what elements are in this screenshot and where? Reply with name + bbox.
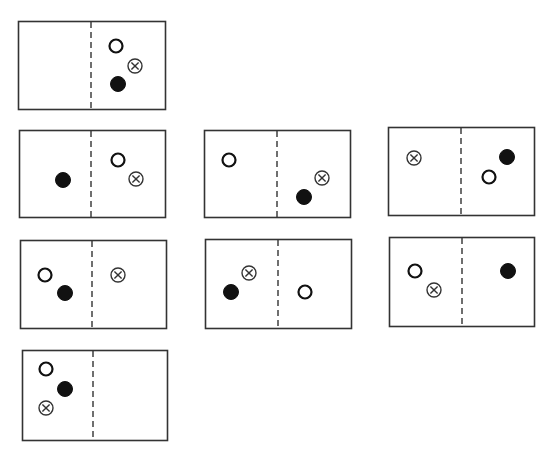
circled-cross-icon	[242, 266, 256, 280]
open-circle-icon	[112, 154, 125, 167]
open-circle-icon	[483, 171, 496, 184]
filled-circle-icon	[58, 382, 73, 397]
open-circle-icon	[40, 363, 53, 376]
circled-cross-icon	[427, 283, 441, 297]
compartment-box-6	[206, 240, 352, 329]
compartment-box-7	[390, 238, 535, 327]
circled-cross-icon	[407, 151, 421, 165]
compartment-diagram	[0, 0, 549, 449]
filled-circle-icon	[500, 150, 515, 165]
compartment-box-1	[19, 22, 166, 110]
box-outline	[20, 131, 166, 218]
circled-cross-icon	[129, 172, 143, 186]
compartment-box-3	[205, 131, 351, 218]
open-circle-icon	[39, 269, 52, 282]
filled-circle-icon	[501, 264, 516, 279]
filled-circle-icon	[111, 77, 126, 92]
filled-circle-icon	[58, 286, 73, 301]
compartment-box-2	[20, 131, 166, 218]
compartment-box-8	[23, 351, 168, 441]
open-circle-icon	[223, 154, 236, 167]
open-circle-icon	[110, 40, 123, 53]
open-circle-icon	[409, 265, 422, 278]
box-outline	[19, 22, 166, 110]
diagram-canvas	[0, 0, 549, 449]
compartment-box-4	[389, 128, 535, 216]
circled-cross-icon	[315, 171, 329, 185]
compartment-box-5	[21, 241, 167, 329]
filled-circle-icon	[224, 285, 239, 300]
filled-circle-icon	[297, 190, 312, 205]
circled-cross-icon	[111, 268, 125, 282]
open-circle-icon	[299, 286, 312, 299]
circled-cross-icon	[128, 59, 142, 73]
filled-circle-icon	[56, 173, 71, 188]
circled-cross-icon	[39, 401, 53, 415]
box-outline	[21, 241, 167, 329]
